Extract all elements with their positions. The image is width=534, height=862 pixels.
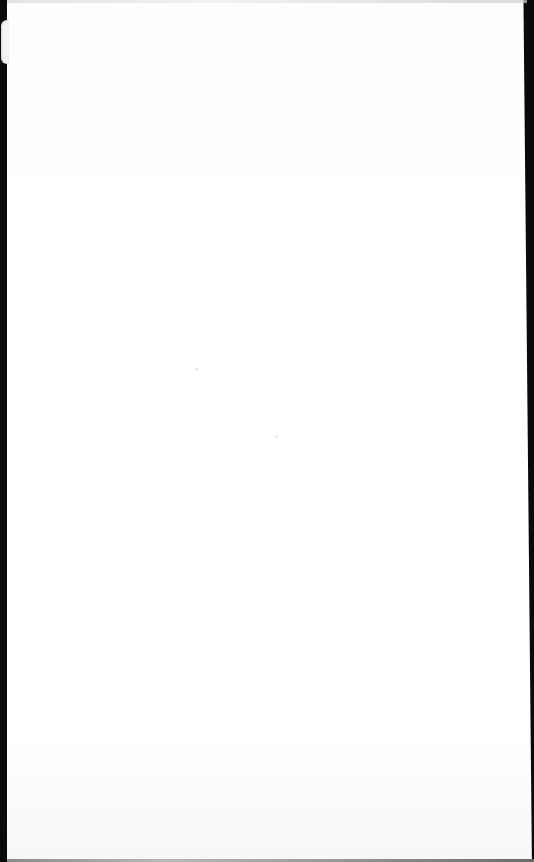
paper-curled-corner xyxy=(1,20,9,64)
paper-top-edge-shadow xyxy=(7,0,527,3)
paper-speck xyxy=(195,368,198,371)
blank-paper-sheet xyxy=(7,0,534,860)
paper-speck xyxy=(275,435,278,438)
photo-scene xyxy=(0,0,534,862)
